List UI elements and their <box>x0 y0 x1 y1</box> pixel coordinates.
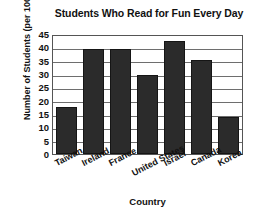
bar-series <box>52 35 243 155</box>
y-axis-tick-label: 30 <box>29 70 49 80</box>
bar-canada <box>191 60 212 154</box>
y-axis-tick-label: 45 <box>29 30 49 40</box>
y-axis-tick-label: 40 <box>29 43 49 53</box>
bar-france <box>110 49 131 154</box>
bar-slot <box>80 35 107 154</box>
y-axis-tick-label: 25 <box>29 83 49 93</box>
bar-slot <box>107 35 134 154</box>
y-axis-tick-label: 15 <box>29 110 49 120</box>
bar-israel <box>164 41 185 154</box>
bar-slot <box>188 35 215 154</box>
bar-slot <box>134 35 161 154</box>
y-axis-tick-label: 20 <box>29 97 49 107</box>
y-axis-tick-label: 10 <box>29 123 49 133</box>
bar-ireland <box>83 49 104 154</box>
bar-slot <box>215 35 242 154</box>
bar-slot <box>161 35 188 154</box>
bar-slot <box>53 35 80 154</box>
bar-chart-figure: Students Who Read for Fun Every Day Numb… <box>0 0 268 217</box>
y-axis-tick-label: 0 <box>29 150 49 160</box>
y-axis-tick-label: 5 <box>29 137 49 147</box>
chart-title: Students Who Read for Fun Every Day <box>34 7 264 19</box>
bar-united-states <box>137 75 158 154</box>
x-axis-title: Country <box>52 196 243 207</box>
y-axis-tick-label: 35 <box>29 57 49 67</box>
